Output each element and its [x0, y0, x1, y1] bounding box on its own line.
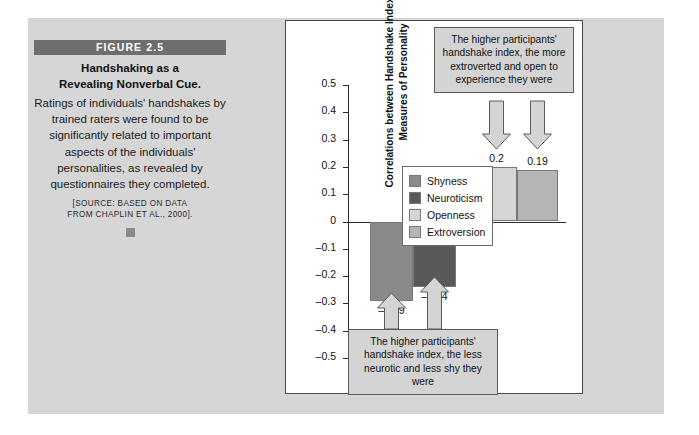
bar-value-label-extroversion: 0.19 — [511, 155, 564, 167]
y-tick-label: 0.1 — [321, 186, 336, 198]
legend-item-neuroticism: Neuroticism — [409, 189, 485, 206]
y-tick: –0.3 — [343, 303, 348, 304]
y-tick-label: 0.2 — [321, 159, 336, 171]
y-tick: 0.4 — [343, 112, 348, 113]
chart-panel: Correlations between Handshake Index and… — [285, 20, 583, 394]
legend-label-shyness: Shyness — [427, 175, 467, 187]
legend-label-extroversion: Extroversion — [427, 226, 485, 238]
callout-top: The higher participants' handshake index… — [434, 27, 574, 93]
y-tick-label: –0.3 — [316, 295, 336, 307]
y-tick: 0.3 — [343, 140, 348, 141]
y-tick: 0.5 — [343, 85, 348, 86]
bar-extroversion — [517, 170, 558, 222]
y-tick-label: –0.4 — [316, 323, 336, 335]
figure-title-line-2: Revealing Nonverbal Cue. — [34, 77, 226, 93]
y-tick: 0.2 — [343, 167, 348, 168]
end-of-caption-marker — [126, 228, 135, 237]
legend-swatch-extroversion — [409, 226, 421, 238]
figure-caption-column: FIGURE 2.5 Handshaking as a Revealing No… — [34, 40, 226, 237]
figure-source-line-1: [SOURCE: BASED ON DATA — [34, 198, 226, 209]
legend-swatch-openness — [409, 209, 421, 221]
y-tick: –0.2 — [343, 276, 348, 277]
y-tick-label: –0.1 — [316, 241, 336, 253]
legend-item-openness: Openness — [409, 206, 485, 223]
figure-source-line-2: FROM CHAPLIN ET AL., 2000]. — [34, 209, 226, 220]
legend-label-neuroticism: Neuroticism — [427, 192, 482, 204]
bar-value-label-shyness: –0.29 — [364, 304, 419, 316]
y-tick-label: –0.5 — [316, 350, 336, 362]
figure-title-line-1: Handshaking as a — [34, 61, 226, 77]
y-tick-label: 0.3 — [321, 132, 336, 144]
figure-number-banner: FIGURE 2.5 — [34, 40, 226, 55]
y-tick-label: –0.2 — [316, 268, 336, 280]
legend-item-shyness: Shyness — [409, 172, 485, 189]
y-tick: –0.1 — [343, 249, 348, 250]
y-tick-label: 0.5 — [321, 77, 336, 89]
legend-item-extroversion: Extroversion — [409, 223, 485, 240]
chart-legend: ShynessNeuroticismOpennessExtroversion — [402, 166, 493, 246]
legend-label-openness: Openness — [427, 209, 475, 221]
legend-swatch-shyness — [409, 175, 421, 187]
y-tick: 0.1 — [343, 194, 348, 195]
y-tick-label: 0 — [330, 214, 336, 226]
figure-page: FIGURE 2.5 Handshaking as a Revealing No… — [0, 0, 699, 435]
callout-bottom: The higher participants' handshake index… — [348, 329, 498, 395]
legend-swatch-neuroticism — [409, 192, 421, 204]
bar-value-label-neuroticism: –0.24 — [407, 290, 462, 302]
y-tick-label: 0.4 — [321, 104, 336, 116]
figure-caption-body: Ratings of individuals' handshakes by tr… — [34, 95, 226, 192]
